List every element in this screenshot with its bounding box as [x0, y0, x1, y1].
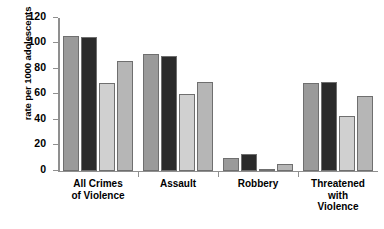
bar-chart: rate per 1000 adolescents 02040608010012…	[0, 0, 384, 229]
bar-group	[303, 18, 373, 171]
x-axis-label-line: Assault	[138, 178, 218, 190]
x-tick	[298, 172, 299, 177]
bar	[339, 116, 355, 171]
bar	[117, 61, 133, 170]
y-tick: 0	[53, 170, 58, 171]
bar	[179, 94, 195, 170]
y-tick-label: 100	[28, 35, 46, 47]
bar	[81, 37, 97, 170]
x-axis-label-line: of Violence	[58, 190, 138, 202]
plot-area: 020406080100120	[58, 18, 378, 172]
x-axis-label-line: Robbery	[218, 178, 298, 190]
bar-group	[223, 18, 293, 171]
bar-group	[63, 18, 133, 171]
bar	[357, 96, 373, 171]
y-tick-label: 20	[34, 137, 46, 149]
y-tick: 20	[53, 144, 58, 145]
x-tick	[218, 172, 219, 177]
bar	[63, 36, 79, 171]
x-axis-label: ThreatenedwithViolence	[298, 178, 378, 213]
y-tick-label: 40	[34, 112, 46, 124]
bar	[277, 164, 293, 170]
y-tick-label: 80	[34, 61, 46, 73]
x-axis-label-line: Violence	[298, 201, 378, 213]
y-tick-label: 0	[40, 163, 46, 175]
bar	[99, 83, 115, 171]
x-tick	[138, 172, 139, 177]
x-axis-labels: All Crimesof ViolenceAssaultRobberyThrea…	[58, 178, 378, 228]
x-axis-label-line: with	[298, 190, 378, 202]
y-tick: 100	[53, 42, 58, 43]
y-tick: 120	[53, 17, 58, 18]
y-tick-label: 120	[28, 10, 46, 22]
y-tick: 60	[53, 93, 58, 94]
bar	[303, 83, 319, 171]
x-axis-label: Robbery	[218, 178, 298, 190]
bar	[197, 82, 213, 171]
x-axis-label-line: Threatened	[298, 178, 378, 190]
y-axis-line	[58, 18, 60, 172]
bar	[241, 154, 257, 171]
y-tick-label: 60	[34, 86, 46, 98]
bar	[321, 82, 337, 171]
bar	[161, 56, 177, 170]
bar	[223, 158, 239, 171]
bar	[259, 169, 275, 171]
y-tick: 40	[53, 119, 58, 120]
bar-group	[143, 18, 213, 171]
x-axis-label: All Crimesof Violence	[58, 178, 138, 201]
x-axis-label: Assault	[138, 178, 218, 190]
y-tick: 80	[53, 68, 58, 69]
bar	[143, 54, 159, 171]
x-axis-label-line: All Crimes	[58, 178, 138, 190]
